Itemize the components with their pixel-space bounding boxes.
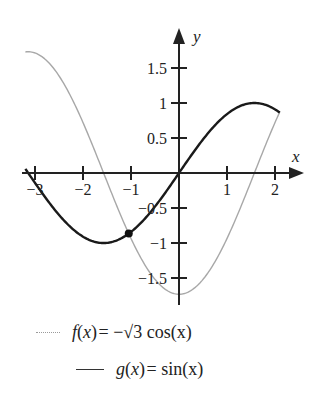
legend-swatch-f [36,332,60,333]
legend-item-f: f(x) = −√3 cos(x) [36,322,192,343]
legend-swatch-g [76,369,104,370]
legend-label-g: g(x) = sin(x) [116,359,203,380]
legend-label-f: f(x) = −√3 cos(x) [72,322,192,343]
legend: f(x) = −√3 cos(x) g(x) = sin(x) [0,0,315,402]
legend-item-g: g(x) = sin(x) [76,359,203,380]
